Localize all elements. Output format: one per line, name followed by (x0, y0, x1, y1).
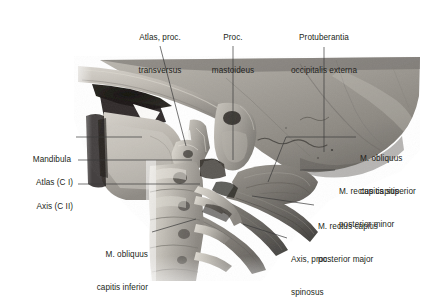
label-axis-cii: Axis (C II) (0, 179, 73, 223)
label-line-2: capitis inferior (58, 282, 148, 293)
label-line-1: Proc. (193, 32, 273, 43)
label-line-2: mastoideus (193, 65, 273, 76)
label-line-1: Axis, proc. (291, 254, 386, 265)
label-line-1: Axis (C II) (0, 201, 73, 212)
label-line-1: M. rectus capitis (339, 186, 445, 197)
label-line-2: transversus (117, 65, 203, 76)
label-line-1: Atlas, proc. (117, 32, 203, 43)
label-line-1: M. rectus capitis (318, 221, 438, 232)
label-atlas-proc-transversus: Atlas, proc. transversus (117, 10, 203, 87)
label-line-1: M. obliquus (360, 153, 445, 164)
label-m-obliquus-capitis-inferior: M. obliquus capitis inferior (58, 227, 148, 301)
label-line-1: Protuberantia (273, 32, 375, 43)
label-line-2: occipitalis externa (273, 65, 375, 76)
label-axis-proc-spinosus: Axis, proc. spinosus (291, 232, 386, 301)
label-proc-mastoideus: Proc. mastoideus (193, 10, 273, 87)
label-line-2: spinosus (291, 287, 386, 298)
label-protuberantia-occipitalis-externa: Protuberantia occipitalis externa (273, 10, 375, 87)
label-line-1: M. obliquus (58, 249, 148, 260)
